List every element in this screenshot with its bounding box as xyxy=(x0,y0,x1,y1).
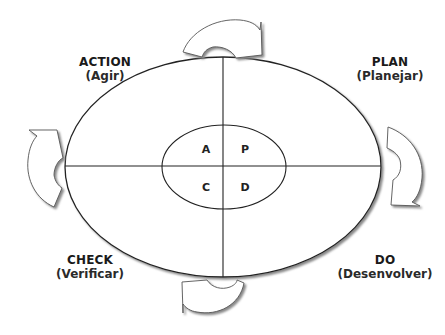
cycle-arrow-left-icon xyxy=(28,130,63,207)
label-check-name: CHECK xyxy=(35,253,145,267)
label-do-name: DO xyxy=(325,253,445,267)
label-plan-translation: (Planejar) xyxy=(340,69,440,83)
cycle-arrow-bottom-icon xyxy=(182,280,244,313)
label-plan: PLAN (Planejar) xyxy=(340,55,440,83)
pdca-diagram xyxy=(0,0,445,335)
label-plan-name: PLAN xyxy=(340,55,440,69)
cycle-arrow-top-icon xyxy=(183,20,262,58)
inner-letter-p: P xyxy=(238,143,252,156)
cycle-arrow-right-icon xyxy=(387,127,422,206)
label-action-translation: (Agir) xyxy=(50,69,160,83)
label-action-name: ACTION xyxy=(50,55,160,69)
label-check: CHECK (Verificar) xyxy=(35,253,145,281)
inner-letter-c: C xyxy=(199,181,213,194)
label-check-translation: (Verificar) xyxy=(35,267,145,281)
label-do-translation: (Desenvolver) xyxy=(325,267,445,281)
inner-letter-a: A xyxy=(199,143,213,156)
inner-letter-d: D xyxy=(238,181,252,194)
label-action: ACTION (Agir) xyxy=(50,55,160,83)
label-do: DO (Desenvolver) xyxy=(325,253,445,281)
